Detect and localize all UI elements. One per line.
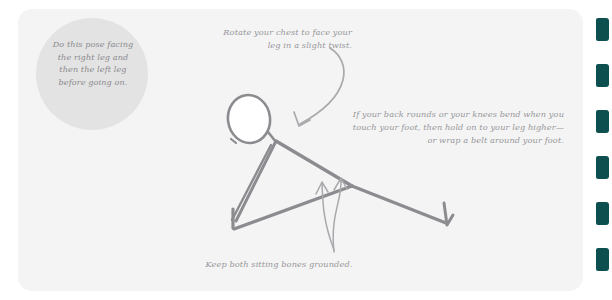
figure-arm-upper	[236, 143, 275, 221]
figure-jaw	[231, 139, 236, 143]
index-tab-4[interactable]	[596, 156, 609, 179]
figure-arm-lower	[232, 145, 271, 220]
index-tab-3[interactable]	[596, 110, 609, 133]
figure-head	[225, 92, 273, 145]
arrow-chest-rotation-shaft	[300, 48, 344, 124]
index-tab-5[interactable]	[596, 202, 609, 225]
index-tab-2[interactable]	[596, 64, 609, 87]
index-tab-6[interactable]	[596, 248, 609, 271]
index-tab-1[interactable]	[596, 18, 609, 41]
figure-foot-far	[444, 203, 453, 225]
pose-illustration	[0, 0, 612, 300]
figure-leg-far	[352, 186, 446, 223]
page-root: Do this pose facing the right leg and th…	[0, 0, 612, 300]
